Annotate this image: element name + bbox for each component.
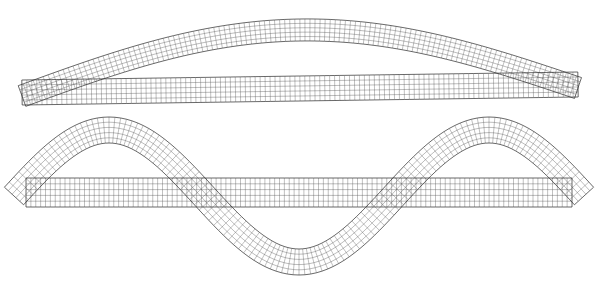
mode-3-buckling-shape-def-trans-line bbox=[293, 249, 295, 275]
mode-3-buckling-shape-def-trans-line bbox=[233, 225, 250, 244]
mode-3-buckling-shape-def-trans-line bbox=[157, 147, 174, 166]
mode-1-buckling-shape-def-trans-line bbox=[93, 59, 100, 80]
mode-3-buckling-shape-def-trans-line bbox=[326, 241, 339, 264]
mode-3-buckling-shape-def-trans-line bbox=[24, 167, 43, 185]
mode-3-buckling-shape-def-trans-line bbox=[190, 182, 209, 200]
mode-3-buckling-shape-def-trans-line bbox=[483, 117, 485, 143]
mode-3-buckling-shape-def-trans-line bbox=[537, 147, 554, 166]
mode-1-buckling-shape-def-trans-line bbox=[229, 25, 232, 47]
mode-1-buckling-shape-def-trans-line bbox=[264, 21, 266, 43]
mode-1-buckling-shape-def-trans-line bbox=[108, 54, 115, 75]
mode-1-buckling-shape-def-trans-line bbox=[295, 19, 296, 41]
mode-3-buckling-shape-def-trans-line bbox=[209, 202, 228, 220]
mode-3-buckling-shape-def-trans-line bbox=[413, 157, 431, 176]
mode-3-buckling-shape-undeformed-mesh bbox=[26, 178, 572, 207]
mode-1-buckling-shape-def-trans-line bbox=[254, 22, 256, 44]
mode-3-buckling-shape-def-trans-line bbox=[565, 177, 584, 195]
mode-1-buckling-shape-def-trans-line bbox=[393, 26, 397, 48]
mode-1-buckling-shape-def-trans-line bbox=[269, 20, 271, 42]
mode-1-buckling-shape-def-trans-line bbox=[320, 19, 321, 41]
mode-1-buckling-shape-def-trans-line bbox=[378, 24, 381, 46]
mode-1-buckling-shape-def-trans-line bbox=[194, 31, 199, 53]
mode-1-buckling-shape-def-trans-line bbox=[417, 31, 421, 53]
mode-3-buckling-shape-def-trans-line bbox=[116, 118, 120, 144]
mode-3-buckling-shape-def-trans-line bbox=[477, 118, 481, 144]
mode-3-buckling-shape-def-trans-line bbox=[259, 241, 272, 264]
mode-1-buckling-shape-def-trans-line bbox=[358, 22, 360, 44]
mode-1-buckling-shape-def-trans-line bbox=[88, 61, 95, 82]
mode-1-buckling-shape-def-trans-line bbox=[388, 26, 391, 48]
mode-1-buckling-shape-def-trans-line bbox=[339, 20, 340, 42]
mode-3-buckling-shape-def-trans-line bbox=[356, 217, 374, 236]
mode-1-buckling-shape-def-trans-line bbox=[103, 56, 110, 77]
mode-3-buckling-shape-def-trans-line bbox=[512, 126, 524, 149]
mode-3-buckling-shape-def-trans-line bbox=[265, 243, 277, 266]
mode-3-buckling-shape-def-trans-line bbox=[352, 221, 370, 240]
mode-3-buckling-shape-def-trans-line bbox=[214, 207, 233, 225]
mode-1-buckling-shape-def-trans-line bbox=[113, 53, 120, 74]
mode-3-buckling-shape-def-trans-line bbox=[97, 118, 101, 144]
mode-3-buckling-shape-def-trans-line bbox=[9, 182, 28, 200]
mode-3-buckling-shape-def-trans-line bbox=[19, 172, 38, 190]
mode-3-buckling-shape-def-trans-line bbox=[194, 187, 213, 205]
mesh-svg bbox=[0, 0, 596, 281]
mode-3-buckling-shape-def-trans-line bbox=[4, 187, 23, 205]
mode-3-buckling-shape-def-trans-line bbox=[343, 229, 360, 249]
mode-3-buckling-shape-def-trans-line bbox=[389, 182, 408, 200]
mode-1-buckling-shape-def-trans-line bbox=[344, 20, 346, 42]
mode-3-buckling-shape-def-trans-line bbox=[33, 157, 51, 176]
mode-1-buckling-shape-def-trans-line bbox=[204, 29, 208, 51]
mode-1-buckling-shape-def-trans-line bbox=[383, 25, 386, 47]
mode-1-buckling-shape-def-trans-line bbox=[432, 34, 437, 55]
mode-3-buckling-shape-def-trans-line bbox=[551, 162, 569, 180]
mode-3-buckling-shape-def-trans-line bbox=[409, 162, 427, 180]
mode-3-buckling-shape-def-trans-line bbox=[228, 221, 246, 240]
buckling-mode-figure: Mode 1 deformed mesh over undeformed bea… bbox=[0, 0, 596, 281]
mode-3-buckling-shape-def-trans-line bbox=[48, 143, 65, 163]
mode-1-buckling-shape-def-trans-line bbox=[224, 26, 227, 48]
mode-3-buckling-shape-def-trans-line bbox=[132, 126, 144, 149]
mode-3-buckling-shape-def-trans-line bbox=[560, 172, 579, 190]
mode-1-buckling-shape-def-trans-line bbox=[249, 22, 251, 44]
mode-1-buckling-shape-def-trans-line bbox=[285, 19, 286, 41]
mode-1-buckling-shape-def-trans-line bbox=[354, 21, 356, 43]
mode-1-buckling-shape-def-trans-line bbox=[239, 23, 242, 45]
mode-3-buckling-shape-def-trans-line bbox=[223, 217, 241, 236]
mode-3-buckling-shape-def-trans-line bbox=[43, 147, 60, 166]
mode-3-buckling-shape-def-trans-line bbox=[496, 118, 500, 144]
mode-3-buckling-shape-def-trans-line bbox=[162, 152, 180, 171]
mode-3-buckling-shape-def-trans-line bbox=[29, 162, 47, 180]
mode-3-buckling-shape-def-trans-line bbox=[185, 177, 204, 195]
mode-3-buckling-shape-def-trans-line bbox=[516, 128, 529, 151]
mode-3-buckling-shape-def-trans-line bbox=[370, 202, 389, 220]
mode-1-buckling-shape-def-trans-line bbox=[368, 23, 371, 45]
mode-3-buckling-shape-def-trans-line bbox=[14, 177, 33, 195]
mode-3-buckling-shape-def-trans-line bbox=[384, 187, 403, 205]
mode-3-buckling-shape-def-trans-line bbox=[303, 249, 305, 275]
mode-3-buckling-shape-def-trans-line bbox=[570, 182, 589, 200]
mode-1-buckling-shape-def-trans-line bbox=[199, 30, 203, 52]
mode-3-buckling-shape-def-trans-line bbox=[219, 212, 237, 230]
mode-1-buckling-shape-def-trans-line bbox=[290, 19, 291, 41]
mode-1-buckling-shape-undeformed-mesh bbox=[22, 72, 578, 105]
mode-3-buckling-shape-def-trans-line bbox=[366, 207, 385, 225]
mode-1-buckling-shape-def-trans-line bbox=[412, 30, 416, 52]
mode-3-buckling-shape-def-trans-line bbox=[153, 143, 170, 163]
mesh-canvas-container bbox=[0, 0, 596, 281]
mode-1-buckling-shape-def-trans-line bbox=[259, 21, 261, 43]
mode-1-buckling-shape-def-trans-line bbox=[334, 20, 335, 42]
mode-1-buckling-shape-def-trans-line bbox=[422, 32, 427, 54]
mode-1-buckling-shape bbox=[18, 19, 581, 106]
mode-3-buckling-shape-def-trans-line bbox=[449, 128, 462, 151]
mode-1-buckling-shape-def-trans-line bbox=[183, 33, 188, 54]
mode-3-buckling-shape-def-trans-line bbox=[493, 117, 495, 143]
mode-3-buckling-shape-def-trans-line bbox=[556, 167, 575, 185]
mode-3-buckling-shape-def-trans-line bbox=[136, 128, 149, 151]
mode-3-buckling-shape-def-trans-line bbox=[574, 187, 593, 205]
mode-3-buckling-shape-def-trans-line bbox=[69, 128, 82, 151]
mode-1-buckling-shape-def-trans-line bbox=[363, 22, 365, 44]
mode-1-buckling-shape-def-trans-line bbox=[437, 35, 442, 56]
mode-3-buckling-shape-def-trans-line bbox=[423, 147, 440, 166]
mode-1-buckling-shape-def-trans-line bbox=[244, 23, 247, 45]
mode-3-buckling-shape-def-trans-line bbox=[180, 172, 199, 190]
